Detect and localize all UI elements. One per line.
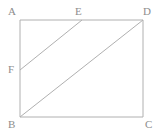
vertex-label-c: C bbox=[145, 119, 152, 130]
vertex-label-d: D bbox=[143, 6, 151, 17]
vertex-label-a: A bbox=[8, 6, 16, 17]
segments-group bbox=[20, 20, 143, 117]
segment-fe bbox=[20, 20, 82, 70]
geometry-canvas bbox=[0, 0, 163, 136]
vertex-label-f: F bbox=[8, 64, 14, 75]
vertex-label-e: E bbox=[75, 6, 82, 17]
vertex-label-b: B bbox=[8, 119, 15, 130]
diagonal-bd bbox=[20, 20, 143, 117]
geometry-figure: A E D F B C bbox=[0, 0, 163, 136]
